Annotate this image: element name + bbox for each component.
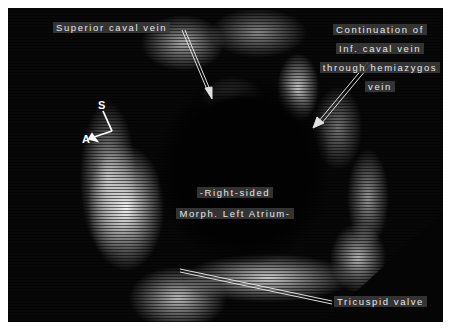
orientation-marker — [89, 111, 112, 141]
pointer-tricuspid-valve — [180, 269, 332, 304]
label-atrium-line-1: -Right-sided — [197, 187, 273, 198]
label-continuation: Continuation of Inf. caval vein through … — [315, 19, 445, 95]
orientation-superior-label: S — [98, 99, 105, 111]
label-superior-caval-vein: Superior caval vein — [53, 22, 170, 33]
label-continuation-line-2: Inf. caval vein — [336, 43, 424, 54]
label-tricuspid-valve: Tricuspid valve — [334, 296, 427, 307]
label-continuation-line-1: Continuation of — [333, 24, 427, 35]
label-continuation-line-3: through hemiazygos — [320, 62, 440, 73]
label-atrium-line-2: Morph. Left Atrium- — [176, 208, 293, 219]
label-continuation-line-4: vein — [365, 81, 395, 92]
orientation-anterior-label: A — [82, 133, 90, 145]
label-atrium: -Right-sided Morph. Left Atrium- — [160, 182, 310, 222]
pointer-superior-caval-vein — [182, 30, 212, 99]
